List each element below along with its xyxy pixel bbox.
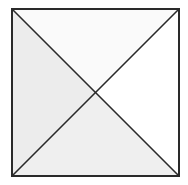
diagram-canvas xyxy=(0,0,188,185)
